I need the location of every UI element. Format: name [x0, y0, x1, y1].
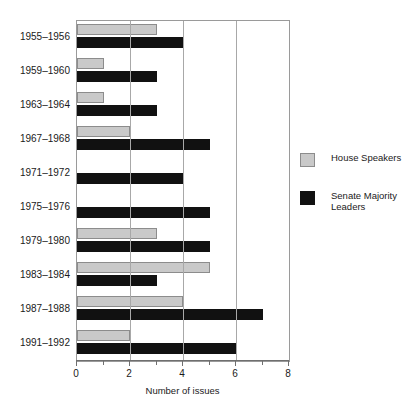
x-axis-tick: [129, 361, 130, 366]
x-axis-tick-label: 0: [61, 368, 91, 380]
bar-house-speakers: [77, 228, 157, 239]
y-axis-tick-label: 1991–1992: [0, 337, 70, 348]
gridline-4: [183, 21, 184, 361]
chart-legend: House SpeakersSenate Majority Leaders: [298, 152, 414, 228]
x-axis-minor-tick: [156, 361, 157, 365]
bar-house-speakers: [77, 58, 104, 69]
y-axis-tick-label: 1979–1980: [0, 235, 70, 246]
y-axis-tick-label: 1971–1972: [0, 167, 70, 178]
x-axis-minor-tick: [103, 361, 104, 365]
chart-title-cropped: [0, 0, 416, 12]
y-axis-tick-label: 1983–1984: [0, 269, 70, 280]
legend-item: House Speakers: [298, 152, 414, 174]
bar-house-speakers: [77, 262, 210, 273]
y-axis-labels: 1955–19561959–19601963–19641967–19681971…: [0, 20, 70, 360]
bar-senate-majority-leaders: [77, 207, 210, 218]
x-axis-tick: [288, 361, 289, 366]
y-axis-tick-label: 1975–1976: [0, 201, 70, 212]
y-axis-tick-label: 1955–1956: [0, 31, 70, 42]
x-axis-minor-tick: [262, 361, 263, 365]
x-axis-tick: [76, 361, 77, 366]
x-axis-tick-label: 2: [114, 368, 144, 380]
y-axis-tick-label: 1963–1964: [0, 99, 70, 110]
bar-senate-majority-leaders: [77, 105, 157, 116]
legend-label: House Speakers: [331, 152, 414, 163]
legend-label: Senate Majority Leaders: [331, 190, 414, 212]
y-axis-tick-label: 1967–1968: [0, 133, 70, 144]
y-axis-tick-label: 1987–1988: [0, 303, 70, 314]
x-axis-tick: [235, 361, 236, 366]
bar-house-speakers: [77, 24, 157, 35]
legend-item: Senate Majority Leaders: [298, 190, 414, 212]
legend-swatch-house: [300, 153, 315, 167]
plot-area: [76, 20, 290, 362]
x-axis-tick-label: 8: [273, 368, 303, 380]
gridline-2: [130, 21, 131, 361]
x-axis-minor-tick: [209, 361, 210, 365]
x-axis-title: Number of issues: [76, 385, 289, 396]
x-axis-tick-label: 4: [167, 368, 197, 380]
x-axis-tick: [182, 361, 183, 366]
legend-swatch-senate: [300, 191, 315, 205]
bar-senate-majority-leaders: [77, 309, 263, 320]
gridline-6: [236, 21, 237, 361]
bar-senate-majority-leaders: [77, 139, 210, 150]
bar-house-speakers: [77, 92, 104, 103]
x-axis-tick-label: 6: [220, 368, 250, 380]
bar-senate-majority-leaders: [77, 71, 157, 82]
bar-house-speakers: [77, 126, 130, 137]
y-axis-tick-label: 1959–1960: [0, 65, 70, 76]
bar-senate-majority-leaders: [77, 241, 210, 252]
bar-senate-majority-leaders: [77, 275, 157, 286]
bar-senate-majority-leaders: [77, 343, 236, 354]
bar-chart: 1955–19561959–19601963–19641967–19681971…: [0, 0, 416, 420]
bar-house-speakers: [77, 330, 130, 341]
